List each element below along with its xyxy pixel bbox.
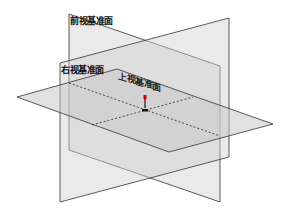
planes-svg: [0, 0, 289, 221]
front-plane-label: 前视基准面: [70, 16, 113, 26]
right-plane-label: 右视基准面: [61, 65, 104, 75]
reference-planes-diagram: 前视基准面 右视基准面 上视基准面: [0, 0, 289, 221]
